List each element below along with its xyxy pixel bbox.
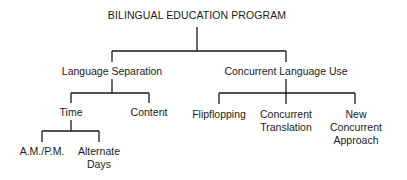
connector-time — [42, 120, 99, 142]
node-alternate-days-line-2: Days — [78, 158, 120, 171]
connector-root — [112, 27, 286, 62]
node-content: Content — [131, 106, 168, 119]
node-flipflopping-label: Flipflopping — [192, 108, 246, 121]
connector-language-separation — [71, 79, 149, 103]
node-language-separation-label: Language Separation — [62, 65, 162, 78]
node-flipflopping: Flipflopping — [192, 108, 246, 121]
node-new-concurrent-approach-line-3: Approach — [330, 134, 382, 147]
node-root: BILINGUAL EDUCATION PROGRAM — [108, 9, 286, 22]
connector-concurrent-language-use — [219, 79, 355, 104]
node-concurrent-language-use-label: Concurrent Language Use — [224, 65, 347, 78]
node-concurrent-language-use: Concurrent Language Use — [224, 65, 347, 78]
node-concurrent-translation-line-2: Translation — [260, 121, 312, 134]
node-root-label: BILINGUAL EDUCATION PROGRAM — [108, 9, 286, 22]
node-time: Time — [60, 106, 83, 119]
node-content-label: Content — [131, 106, 168, 119]
node-language-separation: Language Separation — [62, 65, 162, 78]
node-time-label: Time — [60, 106, 83, 119]
node-am-pm: A.M./P.M. — [20, 145, 65, 158]
node-new-concurrent-approach: New Concurrent Approach — [330, 108, 382, 147]
node-am-pm-label: A.M./P.M. — [20, 145, 65, 158]
node-alternate-days: Alternate Days — [78, 145, 120, 171]
node-concurrent-translation-line-1: Concurrent — [260, 108, 312, 121]
node-alternate-days-line-1: Alternate — [78, 145, 120, 158]
node-concurrent-translation: Concurrent Translation — [260, 108, 312, 134]
node-new-concurrent-approach-line-2: Concurrent — [330, 121, 382, 134]
node-new-concurrent-approach-line-1: New — [330, 108, 382, 121]
tree-diagram: BILINGUAL EDUCATION PROGRAM Language Sep… — [0, 0, 407, 180]
